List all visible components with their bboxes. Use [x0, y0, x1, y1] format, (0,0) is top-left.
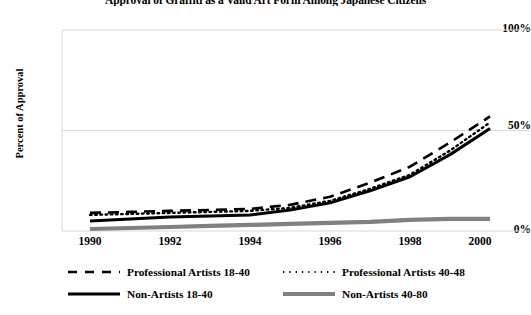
chart-legend: Professional Artists 18-40 Professional … [0, 262, 531, 312]
x-axis-tick-1998: 1998 [380, 235, 440, 247]
series-line-professional-artists-40-48 [90, 122, 490, 214]
legend-label: Non-Artists 40-80 [342, 288, 428, 300]
plot-area [0, 0, 531, 250]
series-line-non-artists-18-40 [90, 128, 490, 220]
x-axis-tick-1994: 1994 [220, 235, 280, 247]
series-line-non-artists-40-80 [90, 219, 490, 229]
solid-gray-line-swatch [281, 288, 337, 300]
solid-black-line-swatch [66, 288, 122, 300]
legend-label: Non-Artists 18-40 [127, 288, 213, 300]
legend-item-non-artists-40-80: Non-Artists 40-80 [281, 288, 428, 300]
dashed-line-swatch [66, 266, 122, 278]
x-axis-tick-1996: 1996 [300, 235, 360, 247]
legend-label: Professional Artists 40-48 [342, 266, 465, 278]
legend-item-professional-artists-18-40: Professional Artists 18-40 [66, 266, 250, 278]
dotted-line-swatch [281, 266, 337, 278]
x-axis-tick-1990: 1990 [60, 235, 120, 247]
legend-item-non-artists-18-40: Non-Artists 18-40 [66, 288, 213, 300]
x-axis-tick-2000: 2000 [450, 235, 510, 247]
line-chart: Approval of Graffiti as a Valid Art Form… [0, 0, 531, 315]
x-axis-tick-1992: 1992 [140, 235, 200, 247]
legend-item-professional-artists-40-48: Professional Artists 40-48 [281, 266, 465, 278]
legend-label: Professional Artists 18-40 [127, 266, 250, 278]
